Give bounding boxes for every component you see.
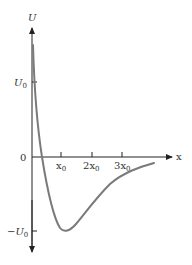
- y-tick-label-u0: U0: [14, 77, 27, 90]
- x-tick-label-x0: x0: [56, 160, 66, 173]
- potential-energy-diagram: U x 0 U0 −U0 x0 2x0 3x0: [0, 0, 192, 265]
- origin-label: 0: [20, 152, 26, 163]
- potential-curve: [33, 45, 154, 231]
- x-axis-label: x: [176, 151, 182, 162]
- x-tick-label-3x0: 3x0: [114, 160, 130, 173]
- x-tick-label-2x0: 2x0: [83, 160, 99, 173]
- y-tick-label-neg-u0: −U0: [7, 226, 28, 239]
- y-axis-label: U: [28, 12, 37, 23]
